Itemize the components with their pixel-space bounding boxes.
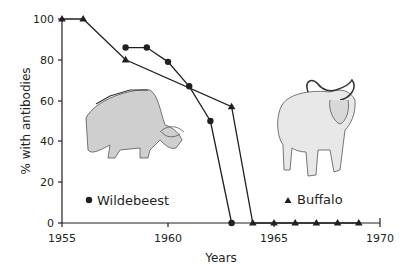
buffalo-illustration bbox=[278, 80, 355, 176]
triangle-marker-icon bbox=[285, 197, 292, 203]
wildebeest-data-point bbox=[228, 220, 234, 226]
wildebeest-data-point bbox=[186, 83, 192, 89]
x-axis-title: Years bbox=[204, 251, 237, 265]
y-tick-60: 60 bbox=[40, 95, 54, 108]
buffalo-data-point bbox=[313, 219, 321, 226]
x-tick-1960: 1960 bbox=[154, 232, 182, 245]
legend-wildebeest: Wildebeest bbox=[86, 193, 169, 208]
x-tick-labels: 1955 1960 1965 1970 bbox=[48, 232, 394, 245]
y-tick-40: 40 bbox=[40, 135, 54, 148]
legend-wildebeest-label: Wildebeest bbox=[97, 193, 169, 208]
wildebeest-data-point bbox=[207, 118, 213, 124]
buffalo-data-point bbox=[58, 15, 66, 22]
y-tick-0: 0 bbox=[47, 217, 54, 230]
x-tick-1970: 1970 bbox=[366, 232, 394, 245]
y-axis-title: % with antibodies bbox=[19, 67, 33, 174]
x-tick-1965: 1965 bbox=[260, 232, 288, 245]
legend-buffalo: Buffalo bbox=[285, 192, 343, 207]
buffalo-data-point bbox=[355, 219, 363, 226]
wildebeest-illustration bbox=[86, 90, 184, 158]
y-tick-labels: 100 80 60 40 20 0 bbox=[33, 13, 54, 230]
circle-marker-icon bbox=[86, 197, 92, 203]
buffalo-data-point bbox=[249, 219, 257, 226]
buffalo-data-point bbox=[291, 219, 299, 226]
x-tick-1955: 1955 bbox=[48, 232, 76, 245]
y-tick-20: 20 bbox=[40, 176, 54, 189]
buffalo-data-point bbox=[270, 219, 278, 226]
wildebeest-data-point bbox=[144, 44, 150, 50]
antibody-chart: 100 80 60 40 20 0 1955 1960 1965 1970 Ye… bbox=[0, 0, 409, 272]
buffalo-data-point bbox=[334, 219, 342, 226]
y-tick-80: 80 bbox=[40, 54, 54, 67]
y-tick-100: 100 bbox=[33, 13, 54, 26]
wildebeest-data-point bbox=[165, 59, 171, 65]
legend-buffalo-label: Buffalo bbox=[297, 192, 343, 207]
wildebeest-data-point bbox=[122, 44, 128, 50]
buffalo-data-point bbox=[79, 15, 87, 22]
